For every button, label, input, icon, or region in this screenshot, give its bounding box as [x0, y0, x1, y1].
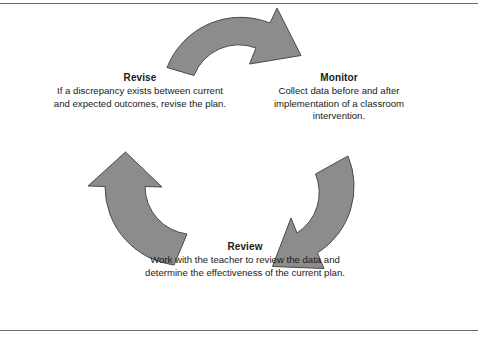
node-review-description: Work with the teacher to review the data…: [138, 254, 352, 279]
cycle-diagram-figure: Revise If a discrepancy exists between c…: [0, 0, 489, 341]
node-monitor-title: Monitor: [251, 71, 427, 84]
node-monitor-description: Collect data before and after implementa…: [251, 85, 427, 123]
cycle-arrows-group: [0, 0, 489, 341]
node-revise: Revise If a discrepancy exists between c…: [50, 71, 230, 110]
node-review-title: Review: [138, 240, 352, 253]
node-revise-title: Revise: [50, 71, 230, 84]
node-review: Review Work with the teacher to review t…: [138, 240, 352, 279]
node-revise-description: If a discrepancy exists between current …: [50, 85, 230, 110]
arrow-top-revise-to-monitor: [167, 8, 301, 76]
node-monitor: Monitor Collect data before and after im…: [251, 71, 427, 123]
